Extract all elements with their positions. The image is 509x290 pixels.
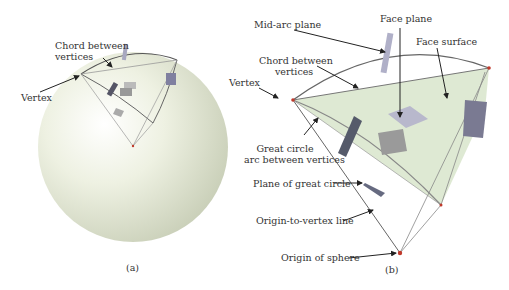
label-origin-sphere: Origin of sphere — [281, 252, 360, 263]
sphere-panel-a — [38, 44, 228, 242]
label-origin-to-vertex: Origin-to-vertex line — [256, 215, 354, 226]
label-mid-arc-plane: Mid-arc plane — [254, 19, 321, 30]
label-vertex-b: Vertex — [229, 77, 260, 88]
label-chord-a-2: vertices — [55, 51, 93, 62]
label-plane-great-circle: Plane of great circle — [253, 178, 351, 189]
label-chord-b-2: vertices — [275, 66, 313, 77]
label-face-surface: Face surface — [416, 36, 477, 47]
label-face-plane: Face plane — [380, 13, 432, 24]
caption-a: (a) — [126, 262, 139, 273]
label-vertex-a: Vertex — [21, 92, 52, 103]
label-chord-b-1: Chord between — [259, 55, 333, 66]
label-great-circle-2: arc between vertices — [244, 154, 345, 165]
label-great-circle-1: Great circle — [250, 143, 320, 154]
label-chord-a-1: Chord between — [55, 40, 129, 51]
caption-b: (b) — [385, 264, 399, 275]
